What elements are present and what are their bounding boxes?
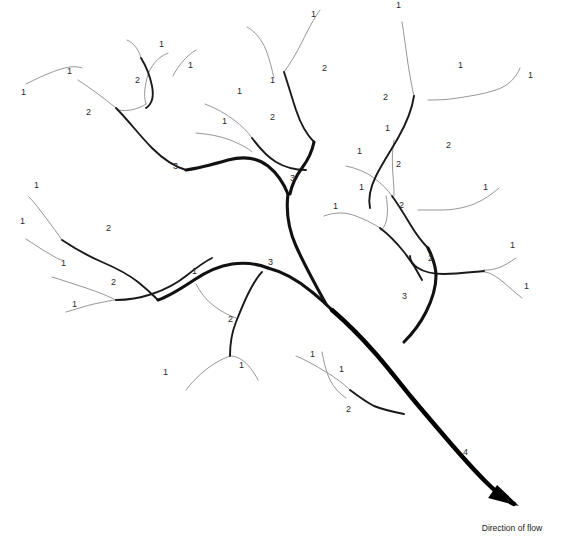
order-label-1-37: 1 <box>192 266 197 276</box>
order-label-2-34: 2 <box>111 277 116 287</box>
order-label-2-12: 2 <box>270 112 275 122</box>
stream-segment-order2-e-branch <box>410 256 484 274</box>
order-label-1-11: 1 <box>222 116 227 126</box>
stream-segment-order1-s-bottom-hook <box>322 352 346 398</box>
order-label-2-2: 2 <box>86 107 91 117</box>
stream-segment-order1-nw-upper <box>78 80 116 108</box>
order-label-2-20: 2 <box>396 159 401 169</box>
stream-segment-order1-mid-left-lower <box>196 133 252 152</box>
stream-segment-order1-mid2-left <box>346 166 392 196</box>
order-label-1-4: 1 <box>159 39 164 49</box>
order-label-2-19: 2 <box>446 140 451 150</box>
order-label-2-24: 2 <box>399 200 404 210</box>
stream-segment-order1-s-hook <box>196 284 236 318</box>
order-label-2-26: 2 <box>428 253 433 263</box>
order-label-1-22: 1 <box>359 182 364 192</box>
stream-segment-order2-mid2 <box>392 196 428 248</box>
stream-segment-order1-sw-tip2 <box>26 239 62 260</box>
order-label-1-16: 1 <box>528 70 533 80</box>
order-label-1-23: 1 <box>333 201 338 211</box>
direction-of-flow-caption: Direction of flow <box>482 523 543 533</box>
order-label-1-18: 1 <box>385 123 390 133</box>
order-label-1-8: 1 <box>311 9 316 19</box>
order-label-1-7: 1 <box>270 75 275 85</box>
stream-segment-order3-sw-to-main <box>268 268 332 310</box>
stream-segment-order1-sw-tip1 <box>29 197 62 240</box>
order-label-2-38: 2 <box>228 314 233 324</box>
stream-segment-order1-far-nw-tip <box>26 67 82 84</box>
order-label-4-44: 4 <box>463 447 468 457</box>
order-label-1-40: 1 <box>239 360 244 370</box>
order-label-2-9: 2 <box>322 63 327 73</box>
stream-segment-order1-ne-right-tip <box>428 68 520 100</box>
order-label-1-1: 1 <box>67 66 72 76</box>
stream-network-canvas: 1122113112112311121221112121131121213121… <box>0 0 570 540</box>
stream-segment-order1-nw-hook <box>145 53 168 104</box>
stream-segment-order1-sc-tip1 <box>186 356 230 390</box>
stream-segment-order1-n-left-tip <box>127 40 141 58</box>
stream-segment-order2-ne-stem <box>369 96 414 208</box>
stream-segment-order2-n-upper <box>141 58 153 108</box>
stream-segment-order2-mid-left <box>252 138 306 170</box>
order-label-3-29: 3 <box>402 291 407 301</box>
order-label-2-43: 2 <box>346 404 351 414</box>
stream-segment-order2-sw-main <box>62 240 158 300</box>
order-label-1-14: 1 <box>396 0 401 10</box>
stream-segment-order2-sc-stem <box>230 272 262 356</box>
order-label-1-27: 1 <box>510 240 515 250</box>
stream-segment-order1-nc-left <box>247 27 274 78</box>
stream-segment-order2-low-left <box>380 228 422 280</box>
stream-segment-order1-e-right-tip1 <box>484 258 516 270</box>
order-label-1-39: 1 <box>163 367 168 377</box>
stream-segment-order3-upper-trunk <box>186 158 288 194</box>
stream-segment-order1-low-left-arc <box>324 213 380 228</box>
stream-order-labels-group: 1122113112112311121221112121131121213121… <box>20 0 533 457</box>
order-label-1-5: 1 <box>188 60 193 70</box>
stream-segment-order2-nc-stem <box>284 72 314 142</box>
order-label-1-10: 1 <box>237 86 242 96</box>
stream-segment-order1-nw-hook-join <box>118 104 146 111</box>
order-label-1-28: 1 <box>524 281 529 291</box>
order-label-3-36: 3 <box>268 257 273 267</box>
stream-segment-order1-e-right-tip2 <box>484 272 522 298</box>
stream-order-diagram: 1122113112112311121221112121131121213121… <box>0 0 570 540</box>
stream-segment-order1-nc-right <box>284 10 320 72</box>
order-label-1-33: 1 <box>61 258 66 268</box>
stream-segment-order4-main-trunk <box>332 310 514 504</box>
order-label-1-35: 1 <box>72 299 77 309</box>
stream-segment-order1-sw2-tip1 <box>52 277 116 300</box>
order-label-1-30: 1 <box>34 180 39 190</box>
stream-segment-order1-ne-left-tip <box>402 22 414 96</box>
order-label-1-25: 1 <box>483 182 488 192</box>
order-label-3-13: 3 <box>290 173 295 183</box>
order-label-1-41: 1 <box>310 349 315 359</box>
order-label-1-31: 1 <box>20 216 25 226</box>
order-label-1-0: 1 <box>21 87 26 97</box>
order-label-2-3: 2 <box>135 75 140 85</box>
stream-segment-order1-mid-left-upper <box>205 104 252 138</box>
order-label-1-15: 1 <box>458 60 463 70</box>
order-label-1-21: 1 <box>357 146 362 156</box>
order-label-2-32: 2 <box>106 223 111 233</box>
stream-segment-order1-low-left-hook <box>380 196 388 230</box>
order-label-2-17: 2 <box>383 92 388 102</box>
order-label-1-42: 1 <box>339 364 344 374</box>
stream-segment-order2-s-bottom <box>350 390 404 414</box>
stream-segment-order3-sw-trunk <box>158 263 268 300</box>
order-label-3-6: 3 <box>173 161 178 171</box>
